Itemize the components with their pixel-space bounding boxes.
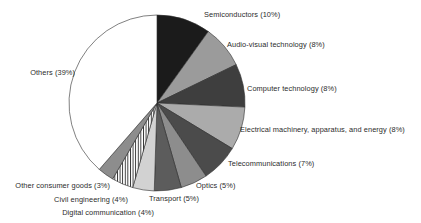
pie-slice-label: Telecommunications (7%) — [228, 160, 314, 167]
pie-slice-label: Semiconductors (10%) — [204, 11, 280, 18]
pie-slices-group — [69, 15, 245, 191]
pie-slice-label: Other consumer goods (3%) — [15, 182, 110, 189]
pie-slice-label: Computer technology (8%) — [247, 85, 337, 92]
pie-slice-label: Civil engineering (4%) — [54, 196, 128, 203]
pie-slice-label: Electrical machinery, apparatus, and ene… — [240, 126, 405, 133]
pie-chart-figure: Semiconductors (10%)Audio-visual technol… — [0, 0, 421, 223]
pie-slice-label: Others (39%) — [30, 69, 75, 76]
pie-slice-label: Digital communication (4%) — [62, 209, 154, 216]
pie-slice-label: Transport (5%) — [149, 195, 199, 202]
pie-slice-label: Optics (5%) — [196, 182, 235, 189]
pie-slice-label: Audio-visual technology (8%) — [227, 41, 325, 48]
